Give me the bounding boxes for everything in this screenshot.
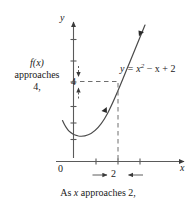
figure-caption: As x approaches 2, — [0, 187, 196, 199]
x-value-label: 2 — [111, 168, 116, 180]
x-axis-label: x — [180, 162, 184, 174]
y-value-label: 4 — [71, 76, 76, 88]
curve-equation-label: y = x2 − x + 2 — [120, 62, 175, 75]
figure-graphics — [0, 0, 196, 212]
fx-approaches-line-1: f(x) — [6, 57, 68, 69]
origin-label: 0 — [58, 163, 63, 175]
caption-prefix: As — [60, 187, 74, 198]
equation-rest: − x + 2 — [144, 63, 175, 74]
y-axis-label: y — [60, 12, 64, 24]
fx-approaches-label: f(x) approaches 4, — [6, 57, 68, 92]
fx-approaches-line-2: approaches — [6, 69, 68, 81]
limit-figure: y x 0 4 2 f(x) approaches 4, y = x2 − x … — [0, 0, 196, 212]
caption-suffix: approaches 2, — [78, 187, 135, 198]
equation-base: y = x — [120, 63, 141, 74]
fx-approaches-line-3: 4, — [6, 81, 68, 93]
